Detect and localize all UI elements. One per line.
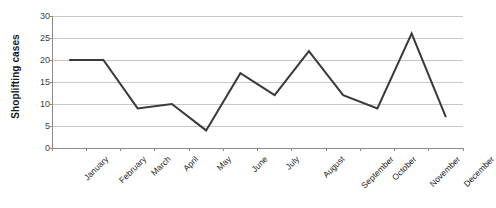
gridlines [52, 16, 463, 148]
